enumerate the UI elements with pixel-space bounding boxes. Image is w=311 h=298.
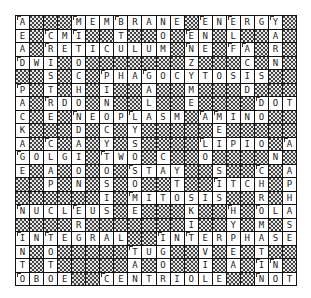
letter-cell[interactable]: N	[269, 259, 282, 272]
letter-cell[interactable]: D	[72, 124, 85, 137]
letter-cell[interactable]: S	[157, 111, 170, 124]
letter-cell[interactable]: R	[213, 232, 226, 245]
letter-cell[interactable]: I	[100, 84, 113, 97]
letter-cell[interactable]: T	[157, 192, 170, 205]
letter-cell[interactable]: K	[16, 124, 29, 137]
letter-cell[interactable]: A	[199, 111, 212, 124]
letter-cell[interactable]: W	[114, 151, 127, 164]
letter-cell[interactable]: Y	[171, 165, 184, 178]
letter-cell[interactable]: T	[44, 84, 57, 97]
letter-cell[interactable]: S	[283, 219, 296, 232]
letter-cell[interactable]: M	[72, 16, 85, 29]
letter-cell[interactable]: A	[142, 16, 155, 29]
letter-cell[interactable]: O	[72, 57, 85, 70]
letter-cell[interactable]: O	[269, 97, 282, 110]
letter-cell[interactable]: M	[157, 43, 170, 56]
letter-cell[interactable]: A	[283, 205, 296, 218]
letter-cell[interactable]: D	[255, 97, 268, 110]
letter-cell[interactable]: L	[128, 111, 141, 124]
letter-cell[interactable]: P	[44, 178, 57, 191]
letter-cell[interactable]: C	[100, 124, 113, 137]
letter-cell[interactable]: G	[72, 232, 85, 245]
letter-cell[interactable]: P	[227, 232, 240, 245]
letter-cell[interactable]: N	[241, 111, 254, 124]
letter-cell[interactable]: M	[185, 84, 198, 97]
letter-cell[interactable]: Y	[227, 219, 240, 232]
letter-cell[interactable]: I	[213, 138, 226, 151]
letter-cell[interactable]: R	[157, 273, 170, 286]
letter-cell[interactable]: C	[72, 70, 85, 83]
letter-cell[interactable]: K	[185, 205, 198, 218]
letter-cell[interactable]: O	[199, 151, 212, 164]
letter-cell[interactable]: C	[255, 165, 268, 178]
letter-cell[interactable]: R	[241, 16, 254, 29]
letter-cell[interactable]: E	[227, 246, 240, 259]
letter-cell[interactable]: I	[199, 192, 212, 205]
letter-cell[interactable]: O	[72, 165, 85, 178]
letter-cell[interactable]: O	[269, 273, 282, 286]
letter-cell[interactable]: O	[157, 70, 170, 83]
letter-cell[interactable]: O	[255, 111, 268, 124]
letter-cell[interactable]: O	[72, 97, 85, 110]
letter-cell[interactable]: T	[283, 273, 296, 286]
letter-cell[interactable]: T	[142, 273, 155, 286]
letter-cell[interactable]: N	[72, 178, 85, 191]
letter-cell[interactable]: N	[185, 43, 198, 56]
letter-cell[interactable]: V	[199, 246, 212, 259]
letter-cell[interactable]: H	[241, 232, 254, 245]
letter-cell[interactable]: Y	[185, 70, 198, 83]
letter-cell[interactable]: A	[269, 30, 282, 43]
letter-cell[interactable]: A	[283, 138, 296, 151]
letter-cell[interactable]: L	[142, 97, 155, 110]
letter-cell[interactable]: F	[227, 43, 240, 56]
letter-cell[interactable]: A	[100, 232, 113, 245]
letter-cell[interactable]: E	[227, 16, 240, 29]
letter-cell[interactable]: H	[283, 192, 296, 205]
letter-cell[interactable]: E	[185, 97, 198, 110]
letter-cell[interactable]: S	[100, 178, 113, 191]
letter-cell[interactable]: N	[16, 246, 29, 259]
letter-cell[interactable]: Y	[100, 138, 113, 151]
letter-cell[interactable]: N	[16, 205, 29, 218]
letter-cell[interactable]: C	[44, 205, 57, 218]
letter-cell[interactable]: I	[241, 70, 254, 83]
letter-cell[interactable]: E	[114, 273, 127, 286]
letter-cell[interactable]: E	[283, 232, 296, 245]
letter-cell[interactable]: M	[171, 111, 184, 124]
letter-cell[interactable]: S	[185, 192, 198, 205]
letter-cell[interactable]: C	[100, 273, 113, 286]
letter-cell[interactable]: O	[157, 30, 170, 43]
letter-cell[interactable]: A	[16, 16, 29, 29]
letter-cell[interactable]: P	[114, 111, 127, 124]
letter-cell[interactable]: W	[30, 57, 43, 70]
letter-cell[interactable]: N	[269, 151, 282, 164]
letter-cell[interactable]: A	[128, 259, 141, 272]
letter-cell[interactable]: C	[100, 43, 113, 56]
letter-cell[interactable]: L	[44, 151, 57, 164]
letter-cell[interactable]: O	[100, 165, 113, 178]
letter-cell[interactable]: E	[199, 43, 212, 56]
letter-cell[interactable]: U	[30, 205, 43, 218]
letter-cell[interactable]: E	[72, 205, 85, 218]
letter-cell[interactable]: B	[114, 16, 127, 29]
letter-cell[interactable]: T	[114, 30, 127, 43]
letter-cell[interactable]: T	[128, 246, 141, 259]
letter-cell[interactable]: U	[142, 43, 155, 56]
letter-cell[interactable]: G	[255, 16, 268, 29]
letter-cell[interactable]: D	[58, 97, 71, 110]
letter-cell[interactable]: T	[185, 232, 198, 245]
letter-cell[interactable]: I	[227, 111, 240, 124]
letter-cell[interactable]: I	[72, 30, 85, 43]
letter-cell[interactable]: I	[171, 273, 184, 286]
letter-cell[interactable]: O	[128, 178, 141, 191]
letter-cell[interactable]: D	[241, 84, 254, 97]
letter-cell[interactable]: T	[100, 151, 113, 164]
letter-cell[interactable]: H	[72, 84, 85, 97]
letter-cell[interactable]: C	[171, 70, 184, 83]
letter-cell[interactable]: E	[58, 43, 71, 56]
letter-cell[interactable]: C	[44, 138, 57, 151]
letter-cell[interactable]: E	[16, 165, 29, 178]
letter-cell[interactable]: M	[128, 192, 141, 205]
letter-cell[interactable]: R	[72, 219, 85, 232]
letter-cell[interactable]: E	[199, 232, 212, 245]
